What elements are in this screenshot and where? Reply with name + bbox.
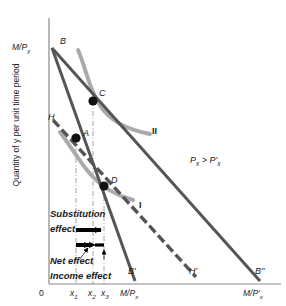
curve-label-II: II — [152, 126, 157, 136]
point-label-H-prime: H' — [189, 266, 197, 276]
origin-label: 0 — [39, 288, 44, 298]
indifference-curve-II-path — [78, 50, 150, 134]
net-effect-label: Net effect — [50, 255, 93, 266]
point-label-B-double-prime: B'' — [255, 266, 264, 276]
price-relation-annotation: Px > P'x — [190, 155, 220, 167]
point-label-B-prime: B' — [128, 266, 136, 276]
point-label-H: H — [48, 112, 55, 122]
y-axis-label: Quantity of y per unit time period — [11, 55, 21, 195]
point-A-marker — [71, 133, 80, 142]
budget-line-BB1 — [52, 48, 135, 281]
substitution-effect-label-line1: Substitution — [50, 208, 105, 219]
point-label-A: A — [83, 128, 89, 138]
diagram-svg — [0, 0, 286, 306]
point-label-B: B — [60, 36, 66, 46]
x-tick-x2: x2 — [88, 288, 96, 300]
x-intercept-label-1: M/Px — [120, 288, 138, 300]
point-label-D: D — [111, 175, 118, 185]
point-C-marker — [88, 96, 97, 105]
curve-label-I: I — [139, 200, 142, 210]
y-intercept-label: M/Py — [12, 42, 30, 54]
income-effect-label: Income effect — [50, 270, 111, 281]
x-tick-x3: x3 — [101, 288, 109, 300]
x-intercept-label-2: M/P'x — [243, 288, 263, 300]
point-D-marker — [99, 181, 108, 190]
figure-canvas: Quantity of y per unit time period M/Py … — [0, 0, 286, 306]
substitution-effect-label-line2: effect — [50, 223, 75, 234]
point-label-C: C — [99, 88, 106, 98]
x-tick-x1: x1 — [70, 288, 78, 300]
